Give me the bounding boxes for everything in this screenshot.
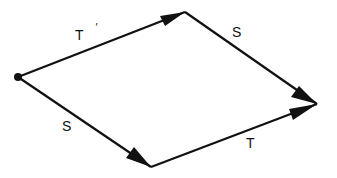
label-prime-mark: ′	[95, 22, 97, 33]
arrowhead-bottom	[126, 147, 151, 167]
diagram-canvas	[0, 0, 337, 178]
arrowhead-top	[160, 12, 185, 26]
origin-dot	[14, 73, 22, 81]
arrow-origin-to-top	[18, 12, 185, 77]
label-t-bottom-right: T	[246, 136, 255, 150]
label-t-prime: T	[75, 28, 84, 42]
label-s-bottom-left: S	[62, 119, 71, 133]
arrowhead-right-lower	[289, 104, 317, 120]
label-s-top-right: S	[232, 25, 241, 39]
